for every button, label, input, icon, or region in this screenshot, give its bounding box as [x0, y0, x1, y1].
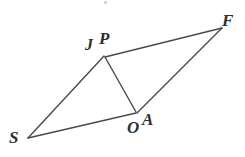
segment-j-o [105, 57, 136, 112]
segment-f-a [137, 28, 222, 113]
geometry-canvas [0, 0, 245, 157]
geometry-figure: S J P F O A [0, 0, 245, 157]
scan-artifact-speck [104, 1, 107, 4]
vertex-label-j: J [85, 37, 93, 53]
vertex-label-s: S [9, 129, 18, 146]
vertex-label-f: F [222, 12, 233, 29]
vertex-label-p: P [99, 30, 109, 47]
vertex-label-a: A [142, 111, 153, 128]
segment-group [28, 28, 222, 138]
segment-s-j [28, 56, 104, 138]
segment-o-s [28, 113, 136, 138]
vertex-label-o: O [127, 119, 139, 136]
segment-p-f [105, 28, 222, 57]
